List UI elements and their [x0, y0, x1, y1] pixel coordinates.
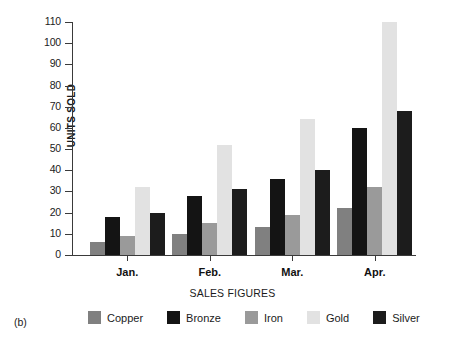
legend-label: Gold: [326, 312, 349, 324]
y-axis-tick-label: 50: [50, 142, 61, 154]
x-axis-tick: [127, 256, 128, 261]
x-axis-tick-label: Apr.: [335, 266, 415, 278]
y-axis-tick: 90: [65, 64, 72, 65]
x-axis-tick: [292, 256, 293, 261]
legend-label: Bronze: [186, 312, 221, 324]
legend-label: Copper: [107, 312, 143, 324]
y-axis-tick: 40: [65, 170, 72, 171]
legend-item-gold: Gold: [307, 311, 349, 324]
legend-swatch-silver: [373, 311, 386, 324]
y-axis-line: [72, 22, 73, 255]
x-axis-tick-label: Feb.: [170, 266, 250, 278]
legend-item-iron: Iron: [245, 311, 283, 324]
bar-iron: [202, 223, 217, 255]
y-axis-tick-label: 0: [55, 248, 61, 260]
bar-group: [172, 22, 247, 255]
y-axis-tick-label: 60: [50, 121, 61, 133]
bar-silver: [397, 111, 412, 255]
y-axis-tick: 0: [65, 255, 72, 256]
y-axis-tick: 60: [65, 128, 72, 129]
bar-group: [255, 22, 330, 255]
bar-bronze: [105, 217, 120, 255]
legend-swatch-copper: [88, 311, 101, 324]
bar-copper: [90, 242, 105, 255]
bar-group: [337, 22, 412, 255]
bar-copper: [172, 234, 187, 255]
bar-chart-figure: UNITS SOLD 0102030405060708090100110 Jan…: [0, 0, 465, 345]
y-axis-tick: 70: [65, 107, 72, 108]
y-axis-tick: 20: [65, 213, 72, 214]
legend-item-silver: Silver: [373, 311, 420, 324]
y-axis-tick: 80: [65, 86, 72, 87]
x-axis-tick-label: Mar.: [252, 266, 332, 278]
legend: CopperBronzeIronGoldSilver: [88, 311, 456, 324]
bar-gold: [382, 22, 397, 255]
legend-item-bronze: Bronze: [167, 311, 221, 324]
bar-bronze: [187, 196, 202, 255]
bar-group: [90, 22, 165, 255]
bar-iron: [367, 187, 382, 255]
bar-bronze: [352, 128, 367, 255]
y-axis-tick: 10: [65, 234, 72, 235]
y-axis-tick-label: 20: [50, 206, 61, 218]
x-axis-line: [72, 255, 416, 256]
bar-gold: [217, 145, 232, 255]
legend-swatch-bronze: [167, 311, 180, 324]
legend-item-copper: Copper: [88, 311, 143, 324]
y-axis-tick: 30: [65, 191, 72, 192]
x-axis-tick: [375, 256, 376, 261]
x-axis-tick-label: Jan.: [87, 266, 167, 278]
y-axis-tick-label: 40: [50, 163, 61, 175]
y-axis-tick-label: 90: [50, 57, 61, 69]
legend-label: Silver: [392, 312, 420, 324]
legend-swatch-iron: [245, 311, 258, 324]
y-axis-tick-label: 80: [50, 79, 61, 91]
bar-gold: [135, 187, 150, 255]
bar-silver: [315, 170, 330, 255]
bar-silver: [232, 189, 247, 255]
y-axis-tick-label: 10: [50, 227, 61, 239]
y-axis-tick-label: 100: [44, 36, 61, 48]
plot-area: 0102030405060708090100110 Jan.Feb.Mar.Ap…: [72, 22, 402, 255]
y-axis-tick-label: 110: [45, 15, 61, 27]
y-axis-tick-label: 30: [50, 184, 61, 196]
x-axis-title: SALES FIGURES: [0, 287, 465, 299]
x-axis-tick: [210, 256, 211, 261]
bar-iron: [285, 215, 300, 255]
bar-copper: [255, 227, 270, 255]
bar-gold: [300, 119, 315, 255]
bar-bronze: [270, 179, 285, 255]
bar-silver: [150, 213, 165, 255]
bar-copper: [337, 208, 352, 255]
y-axis-tick-label: 70: [50, 100, 61, 112]
y-axis-tick: 100: [65, 43, 72, 44]
panel-label: (b): [14, 316, 27, 328]
legend-label: Iron: [264, 312, 283, 324]
y-axis-tick: 110: [65, 22, 72, 23]
legend-swatch-gold: [307, 311, 320, 324]
y-axis-tick: 50: [65, 149, 72, 150]
bar-iron: [120, 236, 135, 255]
